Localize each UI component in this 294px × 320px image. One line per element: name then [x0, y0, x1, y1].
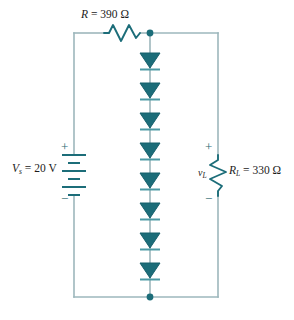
series-resistor-value: 390	[100, 8, 117, 20]
diode-2-anode-triangle	[140, 83, 160, 98]
bottom-node-dot	[147, 294, 154, 301]
series-resistor-unit: Ω	[120, 8, 129, 20]
load-minus-sign: −	[205, 192, 212, 205]
diode-5-anode-triangle	[140, 173, 160, 188]
diode-4-anode-triangle	[140, 143, 160, 158]
diode-4	[140, 143, 160, 160]
diode-6	[140, 203, 160, 220]
source-minus-sign: −	[61, 192, 68, 205]
diode-1-anode-triangle	[140, 53, 160, 68]
diode-8-anode-triangle	[140, 263, 160, 278]
load-resistor-symbol	[210, 155, 226, 196]
circuit-diagram-figure: R = 390 Ω Vs = 20 V + − + − vL RL = 330 …	[0, 0, 294, 320]
battery-symbol	[62, 155, 86, 195]
load-resistor-value: 330	[252, 164, 269, 176]
source-value: 20	[34, 162, 46, 174]
diode-2	[140, 83, 160, 100]
diode-3-anode-triangle	[140, 113, 160, 128]
series-resistor-symbol-text: R	[81, 8, 88, 20]
source-voltage-label: Vs = 20 V	[12, 163, 57, 175]
series-resistor-zigzag	[104, 25, 140, 41]
load-resistor-equals: =	[240, 164, 252, 176]
diode-5	[140, 173, 160, 190]
top-node-dot	[147, 30, 154, 37]
load-resistor-unit: Ω	[273, 164, 282, 176]
load-resistor-zigzag	[210, 155, 226, 196]
source-unit: V	[49, 162, 57, 174]
source-symbol-text: V	[12, 162, 19, 174]
series-resistor-equals: =	[88, 8, 100, 20]
diode-6-anode-triangle	[140, 203, 160, 218]
load-voltage-subscript: L	[202, 171, 206, 180]
load-plus-sign: +	[205, 140, 212, 153]
diode-3	[140, 113, 160, 130]
series-resistor-symbol	[104, 25, 140, 41]
circuit-schematic-canvas	[0, 0, 294, 320]
load-voltage-label: vL	[198, 168, 207, 179]
diode-1	[140, 53, 160, 70]
diode-8	[140, 263, 160, 280]
series-resistor-label: R = 390 Ω	[81, 9, 129, 21]
diode-7-anode-triangle	[140, 233, 160, 248]
source-equals: =	[22, 162, 34, 174]
diode-7	[140, 233, 160, 250]
load-resistor-symbol-text: R	[229, 164, 236, 176]
wire-network	[74, 33, 218, 297]
source-plus-sign: +	[61, 140, 68, 153]
load-resistor-label: RL = 330 Ω	[229, 165, 281, 177]
